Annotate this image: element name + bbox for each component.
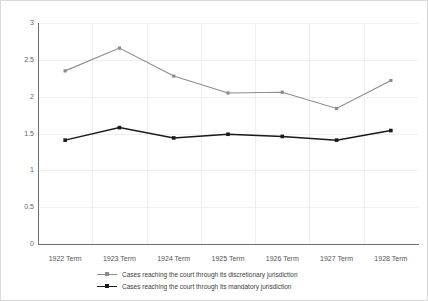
data-point-marker	[335, 138, 339, 142]
chart-figure: 00.511.522.53 1922 Term1923 Term1924 Ter…	[0, 0, 428, 301]
legend-label-mandatory: Cases reaching the court through its man…	[118, 282, 291, 291]
series-plot	[1, 1, 428, 301]
legend-line-marker-icon	[96, 269, 118, 280]
data-point-marker	[118, 46, 121, 49]
data-point-marker	[281, 91, 284, 94]
data-point-marker	[280, 135, 284, 139]
data-point-marker	[118, 126, 122, 130]
data-point-marker	[64, 69, 67, 72]
data-point-marker	[172, 136, 176, 140]
chart-legend: Cases reaching the court through its dis…	[96, 269, 346, 293]
data-point-marker	[226, 132, 230, 136]
legend-line-marker-icon	[96, 281, 118, 292]
data-point-marker	[335, 107, 338, 110]
data-point-marker	[226, 91, 229, 94]
data-point-marker	[389, 79, 392, 82]
data-point-marker	[63, 138, 67, 142]
data-point-marker	[389, 129, 393, 133]
legend-item-discretionary[interactable]: Cases reaching the court through its dis…	[96, 269, 346, 280]
legend-item-mandatory[interactable]: Cases reaching the court through its man…	[96, 281, 346, 292]
legend-label-discretionary: Cases reaching the court through its dis…	[118, 270, 298, 279]
series-line	[65, 48, 391, 108]
data-point-marker	[172, 74, 175, 77]
